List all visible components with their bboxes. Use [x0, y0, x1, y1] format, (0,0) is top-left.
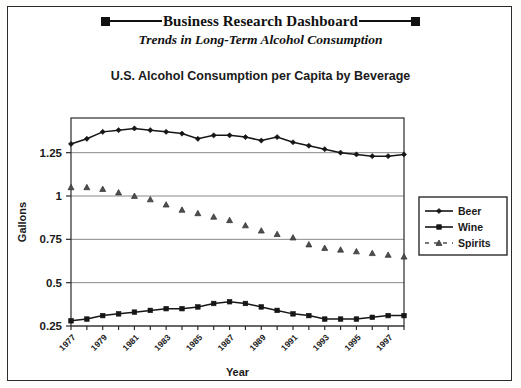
- x-axis-label: Year: [226, 366, 250, 378]
- data-point-triangle: [369, 250, 375, 255]
- data-point-triangle: [258, 228, 264, 233]
- data-point-square: [100, 313, 105, 318]
- legend-label: Spirits: [458, 237, 491, 249]
- data-point-triangle: [227, 217, 233, 222]
- data-point-diamond: [338, 150, 343, 155]
- document-frame: Business Research Dashboard Trends in Lo…: [7, 6, 512, 381]
- data-point-square: [116, 312, 121, 317]
- data-point-triangle: [179, 207, 185, 212]
- data-point-square: [132, 310, 137, 315]
- data-point-diamond: [370, 154, 375, 159]
- square-ornament-left-icon: [101, 17, 110, 26]
- data-point-square: [227, 299, 232, 304]
- y-axis-ticks: 0.250.50.7511.25: [40, 147, 71, 332]
- screenshot-page: Business Research Dashboard Trends in Lo…: [0, 0, 521, 388]
- data-point-square: [322, 317, 327, 322]
- data-point-square: [307, 313, 312, 318]
- y-axis-label: Gallons: [16, 202, 28, 242]
- data-point-diamond: [164, 129, 169, 134]
- x-tick-label: 1983: [152, 332, 173, 353]
- data-point-triangle: [274, 231, 280, 236]
- plot-border: [71, 118, 404, 326]
- data-point-square: [437, 225, 442, 230]
- data-point-triangle: [306, 242, 312, 247]
- data-point-diamond: [148, 128, 153, 133]
- header-subtitle: Trends in Long-Term Alcohol Consumption: [8, 32, 513, 48]
- data-point-square: [386, 313, 391, 318]
- series-beer: [68, 126, 406, 159]
- data-point-diamond: [179, 131, 184, 136]
- gridlines: [71, 153, 404, 326]
- data-point-diamond: [275, 134, 280, 139]
- header-rule-left: [110, 20, 162, 22]
- data-point-square: [354, 317, 359, 322]
- data-point-triangle: [147, 196, 153, 201]
- x-tick-label: 1997: [374, 332, 395, 353]
- y-tick-label: 0.25: [40, 320, 63, 332]
- data-point-square: [180, 306, 185, 311]
- data-point-diamond: [116, 128, 121, 133]
- line-chart: 0.250.50.7511.25 19771979198119831985198…: [8, 95, 513, 380]
- data-point-diamond: [306, 143, 311, 148]
- document-header: Business Research Dashboard Trends in Lo…: [8, 11, 513, 48]
- data-point-square: [402, 313, 407, 318]
- square-ornament-right-icon: [411, 17, 420, 26]
- data-point-triangle: [322, 245, 328, 250]
- data-point-triangle: [84, 184, 90, 189]
- data-point-square: [370, 315, 375, 320]
- x-axis-ticks: 1977197919811983198519871989199119931995…: [57, 326, 404, 353]
- series-wine: [69, 299, 407, 323]
- data-point-diamond: [259, 138, 264, 143]
- data-point-triangle: [385, 252, 391, 257]
- data-point-square: [196, 305, 201, 310]
- y-tick-label: 0.75: [40, 233, 63, 245]
- data-point-diamond: [84, 136, 89, 141]
- chart-title: U.S. Alcohol Consumption per Capita by B…: [8, 69, 513, 83]
- x-tick-label: 1979: [89, 332, 110, 353]
- data-point-diamond: [195, 136, 200, 141]
- data-point-diamond: [211, 133, 216, 138]
- header-rule-right: [359, 20, 411, 22]
- series-line: [71, 128, 404, 156]
- data-point-diamond: [322, 147, 327, 152]
- header-title: Business Research Dashboard: [162, 13, 359, 30]
- data-point-square: [164, 306, 169, 311]
- data-point-diamond: [290, 140, 295, 145]
- x-tick-label: 1989: [247, 332, 268, 353]
- header-title-row: Business Research Dashboard: [8, 11, 513, 31]
- x-tick-label: 1995: [342, 332, 363, 353]
- legend-label: Wine: [458, 221, 483, 233]
- data-point-triangle: [116, 190, 122, 195]
- data-point-triangle: [68, 184, 74, 189]
- data-point-triangle: [163, 202, 169, 207]
- data-point-square: [259, 305, 264, 310]
- y-tick-label: 0.5: [46, 277, 63, 289]
- legend-label: Beer: [458, 205, 481, 217]
- chart-legend: BeerWineSpirits: [419, 197, 507, 255]
- data-point-square: [338, 317, 343, 322]
- data-point-square: [148, 308, 153, 313]
- data-point-square: [211, 301, 216, 306]
- data-point-diamond: [386, 154, 391, 159]
- x-tick-label: 1987: [216, 332, 237, 353]
- y-tick-label: 1.25: [40, 147, 63, 159]
- data-point-diamond: [100, 129, 105, 134]
- data-point-square: [275, 308, 280, 313]
- x-tick-label: 1991: [279, 332, 300, 353]
- x-tick-label: 1977: [57, 332, 78, 353]
- data-point-square: [85, 317, 90, 322]
- data-point-triangle: [100, 186, 106, 191]
- x-tick-label: 1993: [311, 332, 332, 353]
- series-group: [68, 126, 407, 323]
- x-tick-label: 1981: [120, 332, 141, 353]
- chart-area: 0.250.50.7511.25 19771979198119831985198…: [8, 95, 513, 380]
- data-point-diamond: [243, 134, 248, 139]
- data-point-diamond: [132, 126, 137, 131]
- data-point-square: [291, 312, 296, 317]
- data-point-diamond: [227, 133, 232, 138]
- data-point-triangle: [242, 222, 248, 227]
- data-point-triangle: [338, 247, 344, 252]
- y-tick-label: 1: [56, 190, 63, 202]
- data-point-triangle: [211, 214, 217, 219]
- data-point-diamond: [68, 141, 73, 146]
